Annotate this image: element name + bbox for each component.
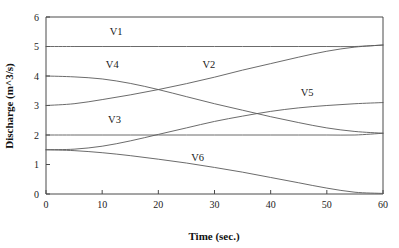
series-label-v4: V4 (106, 59, 120, 70)
chart-background (0, 0, 399, 248)
x-tick-label: 40 (266, 199, 276, 210)
y-tick-label: 3 (34, 100, 39, 111)
x-tick-label: 0 (44, 199, 49, 210)
y-axis-title: Discharge (m^3/s) (3, 63, 16, 149)
series-label-v2: V2 (202, 59, 215, 70)
x-tick-label: 50 (322, 199, 332, 210)
series-label-v1: V1 (110, 26, 123, 37)
y-tick-label: 1 (34, 159, 39, 170)
x-tick-label: 10 (97, 199, 107, 210)
x-tick-label: 30 (210, 199, 220, 210)
x-tick-label: 20 (153, 199, 163, 210)
y-tick-label: 0 (34, 189, 39, 200)
y-tick-label: 5 (34, 41, 39, 52)
y-tick-label: 4 (34, 71, 39, 82)
y-tick-label: 2 (34, 130, 39, 141)
line-chart: 01020304050600123456 V1V2V3V4V5V6 Time (… (0, 0, 399, 248)
x-tick-label: 60 (378, 199, 388, 210)
series-label-v6: V6 (191, 152, 204, 163)
series-label-v3: V3 (108, 114, 121, 125)
y-tick-label: 6 (34, 12, 39, 23)
chart-figure: 01020304050600123456 V1V2V3V4V5V6 Time (… (0, 0, 399, 248)
x-axis-title: Time (sec.) (188, 230, 239, 243)
series-label-v5: V5 (301, 87, 314, 98)
